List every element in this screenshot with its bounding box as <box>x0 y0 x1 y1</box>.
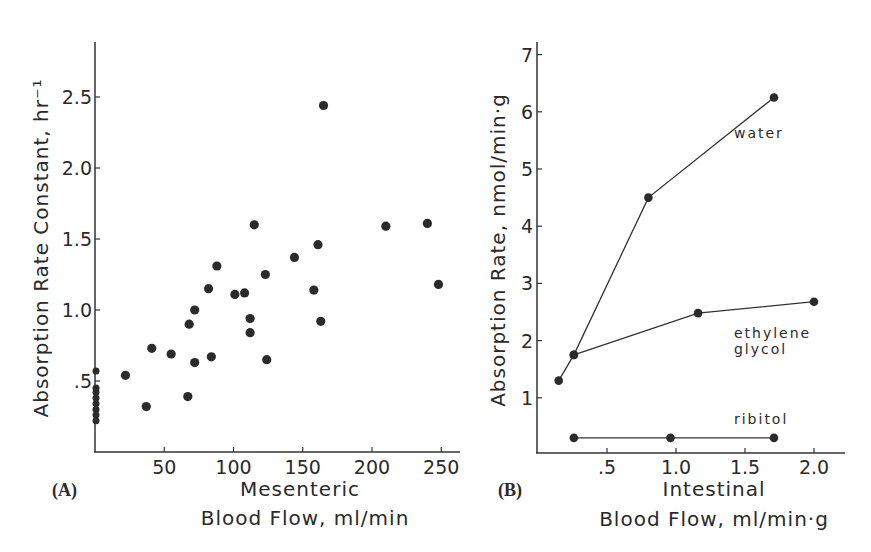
figure: 50100150200250.51.01.52.02.5 Absorption … <box>0 0 871 552</box>
data-point <box>190 305 199 314</box>
chart-a-x-label-line1: Mesenteric <box>240 477 360 501</box>
panel-label-b: (B) <box>498 480 522 501</box>
data-point <box>434 280 443 289</box>
data-point <box>121 371 130 380</box>
data-point <box>262 355 271 364</box>
chart-a-x-tick: 100 <box>215 456 251 478</box>
data-point <box>423 219 432 228</box>
data-point <box>190 358 199 367</box>
series-label: glycol <box>734 341 787 357</box>
chart-b-series <box>554 93 818 442</box>
data-point <box>212 261 221 270</box>
chart-a-x-tick: 250 <box>423 456 459 478</box>
data-point <box>316 317 325 326</box>
chart-b-x-tick: .5 <box>598 456 616 478</box>
data-point <box>240 288 249 297</box>
chart-a-y-tick: 1.0 <box>62 299 92 321</box>
series-label: ribitol <box>734 411 788 427</box>
chart-a-y-tick: 2.5 <box>62 86 92 108</box>
chart-a-y-tick: 1.5 <box>62 228 92 250</box>
chart-a-x-tick: 150 <box>285 456 321 478</box>
chart-a-y-tick: 2.0 <box>62 157 92 179</box>
data-point <box>570 351 579 360</box>
chart-a-y-label: Absorption Rate Constant, hr⁻¹ <box>29 79 53 418</box>
data-point <box>261 270 270 279</box>
data-point <box>142 402 151 411</box>
data-point <box>770 93 779 102</box>
data-point <box>319 101 328 110</box>
data-point <box>290 253 299 262</box>
chart-b-line: .51.01.52.01234567 waterethyleneglycolri… <box>486 42 845 531</box>
data-point <box>230 290 239 299</box>
series-label: water <box>734 125 784 141</box>
data-point <box>313 240 322 249</box>
chart-a-y-tick: .5 <box>74 370 92 392</box>
data-point <box>381 222 390 231</box>
panel-label-a: (A) <box>52 480 77 501</box>
chart-b-x-label-line2: Blood Flow, ml/min·g <box>599 507 829 531</box>
data-point <box>93 368 100 375</box>
data-point <box>644 193 653 202</box>
data-point <box>185 320 194 329</box>
data-point <box>309 286 318 295</box>
data-point <box>246 328 255 337</box>
data-point <box>183 392 192 401</box>
chart-b-x-label-line1: Intestinal <box>662 477 765 501</box>
data-point <box>694 309 703 318</box>
chart-b-x-tick: 1.5 <box>730 456 760 478</box>
data-point <box>167 349 176 358</box>
chart-a-points <box>93 101 444 424</box>
chart-b-x-tick: 2.0 <box>799 456 829 478</box>
data-point <box>770 434 779 443</box>
data-point <box>810 297 819 306</box>
chart-a-x-tick: 200 <box>354 456 390 478</box>
chart-b-y-tick: 1 <box>521 387 533 409</box>
data-point <box>147 344 156 353</box>
data-point <box>246 314 255 323</box>
chart-b-y-tick: 3 <box>521 272 533 294</box>
chart-b-y-tick: 6 <box>521 101 533 123</box>
chart-b-x-tick: 1.0 <box>661 456 691 478</box>
chart-b-series-labels: waterethyleneglycolribitol <box>734 125 811 427</box>
chart-a-x-tick: 50 <box>152 456 176 478</box>
chart-a-x-label-line2: Blood Flow, ml/min <box>201 506 410 530</box>
chart-a-scatter: 50100150200250.51.01.52.02.5 Absorption … <box>29 42 460 530</box>
data-point <box>207 352 216 361</box>
series-label: ethylene <box>734 325 811 341</box>
data-point <box>204 284 213 293</box>
data-point <box>93 417 100 424</box>
chart-b-y-tick: 5 <box>521 158 533 180</box>
data-point <box>250 220 259 229</box>
data-point <box>570 434 579 443</box>
chart-b-y-label: Absorption Rate, nmol/min·g <box>486 93 510 407</box>
chart-b-y-tick: 7 <box>521 44 533 66</box>
chart-a-ticks: 50100150200250.51.01.52.02.5 <box>62 86 460 478</box>
data-point <box>554 376 563 385</box>
chart-b-y-tick: 4 <box>521 215 533 237</box>
data-point <box>666 434 675 443</box>
chart-b-y-tick: 2 <box>521 330 533 352</box>
